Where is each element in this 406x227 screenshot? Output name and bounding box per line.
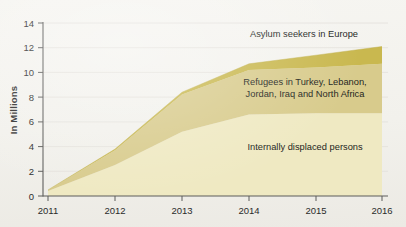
x-tick-label: 2015 xyxy=(305,205,326,216)
y-tick-label: 10 xyxy=(23,67,34,78)
y-tick-label: 2 xyxy=(29,166,34,177)
annotation-refugees-line-1: Refugees in Turkey, Lebanon, xyxy=(243,77,366,87)
x-tick-label: 2011 xyxy=(38,205,58,216)
y-axis-tick-labels: 14 12 10 8 6 4 2 0 xyxy=(23,18,34,202)
chart-figure: 14 12 10 8 6 4 2 0 2011 2012 2013 2014 2… xyxy=(0,0,406,227)
area-chart-svg: 14 12 10 8 6 4 2 0 2011 2012 2013 2014 2… xyxy=(0,0,406,227)
annotation-refugees-line-2: Jordan, Iraq and North Africa xyxy=(246,89,366,99)
y-tick-label: 4 xyxy=(29,141,34,152)
x-tick-label: 2014 xyxy=(238,205,259,216)
y-tick-label: 12 xyxy=(23,42,34,53)
annotation-asylum-seekers-europe: Asylum seekers in Europe xyxy=(250,29,358,39)
y-axis-title: In Millions xyxy=(8,86,19,135)
y-axis-ticks xyxy=(38,23,43,196)
x-tick-label: 2016 xyxy=(371,205,392,216)
y-tick-label: 0 xyxy=(29,191,34,202)
x-axis-ticks xyxy=(48,196,382,201)
annotation-internally-displaced-persons: Internally displaced persons xyxy=(247,142,363,152)
y-tick-label: 6 xyxy=(29,116,34,127)
x-axis-tick-labels: 2011 2012 2013 2014 2015 2016 xyxy=(38,205,393,216)
x-tick-label: 2012 xyxy=(104,205,125,216)
y-tick-label: 8 xyxy=(29,92,34,103)
y-tick-label: 14 xyxy=(23,18,34,29)
x-tick-label: 2013 xyxy=(171,205,192,216)
area-internally-displaced-persons xyxy=(48,113,382,196)
